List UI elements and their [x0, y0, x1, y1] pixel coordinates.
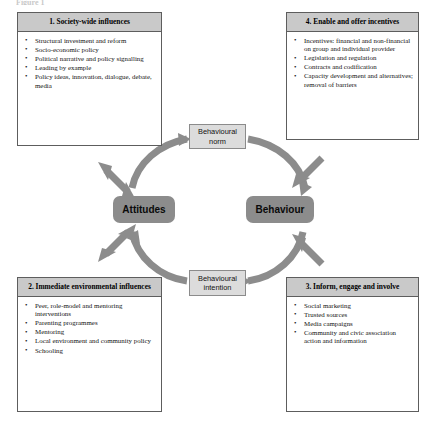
panel-society-wide-influences: 1. Society-wide influences Structural in… [17, 12, 162, 146]
node-norm-line1: Behavioural [198, 127, 237, 136]
panel-title: 2. Immediate environmental influences [18, 278, 161, 297]
list-item: Social marketing [291, 302, 414, 311]
node-attitudes-label: Attitudes [122, 204, 165, 215]
node-behavioural-norm: Behavioural norm [189, 124, 246, 149]
panel-bullet-list: Incentives: financial and non-financial … [291, 37, 414, 90]
panel-bullet-list: Social marketing Trusted sources Media c… [291, 302, 414, 346]
panel-title: 1. Society-wide influences [18, 13, 161, 32]
node-intention-line1: Behavioural [198, 274, 237, 283]
list-item: Incentives: financial and non-financial … [291, 37, 414, 54]
node-norm-line2: norm [209, 137, 226, 146]
list-item: Leading by example [22, 64, 157, 73]
list-item: Media campaigns [291, 320, 414, 329]
list-item: Capacity development and alternatives; r… [291, 72, 414, 89]
node-behavioural-intention: Behavioural intention [189, 270, 246, 296]
panel-body: Peer, role-model and mentoring intervent… [18, 297, 161, 360]
list-item: Mentoring [22, 328, 157, 337]
node-intention-line2: intention [204, 283, 232, 292]
list-item: Peer, role-model and mentoring intervent… [22, 302, 157, 319]
arc-norm-to-behaviour [248, 139, 312, 196]
node-behaviour-label: Behaviour [256, 204, 305, 215]
list-item: Local environment and community policy [22, 337, 157, 346]
arc-intention-to-attitudes [126, 230, 187, 281]
panel-body: Incentives: financial and non-financial … [287, 32, 418, 95]
figure-canvas: Figure 1 [0, 0, 435, 423]
list-item: Socio-economic policy [22, 46, 157, 55]
panel-body: Structural investment and reform Socio-e… [18, 32, 161, 95]
panel-enable-and-offer-incentives: 4. Enable and offer incentives Incentive… [286, 12, 419, 140]
panel-bullet-list: Peer, role-model and mentoring intervent… [22, 302, 157, 356]
arrow-environment-attitudes [98, 224, 136, 262]
panel-immediate-environmental-influences: 2. Immediate environmental influences Pe… [17, 277, 162, 412]
list-item: Schooling [22, 347, 157, 356]
panel-body: Social marketing Trusted sources Media c… [287, 297, 418, 351]
panel-title: 4. Enable and offer incentives [287, 13, 418, 32]
node-behaviour: Behaviour [246, 196, 314, 223]
panel-title: 3. Inform, engage and involve [287, 278, 418, 297]
list-item: Legislation and regulation [291, 54, 414, 63]
list-item: Political narrative and policy signallin… [22, 55, 157, 64]
list-item: Parenting programmes [22, 319, 157, 328]
list-item: Contracts and codification [291, 63, 414, 72]
list-item: Community and civic association action a… [291, 329, 414, 346]
list-item: Policy ideas, innovation, dialogue, deba… [22, 73, 157, 90]
list-item: Trusted sources [291, 311, 414, 320]
list-item: Structural investment and reform [22, 37, 157, 46]
node-attitudes: Attitudes [113, 196, 175, 223]
panel-inform-engage-and-involve: 3. Inform, engage and involve Social mar… [286, 277, 419, 412]
panel-bullet-list: Structural investment and reform Socio-e… [22, 37, 157, 91]
